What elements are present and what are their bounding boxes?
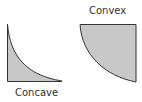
concave-label: Concave xyxy=(15,87,58,98)
concave-figure xyxy=(8,24,63,82)
convex-shaded-region xyxy=(80,25,136,83)
convex-figure xyxy=(80,25,136,83)
convex-label: Convex xyxy=(89,5,126,16)
